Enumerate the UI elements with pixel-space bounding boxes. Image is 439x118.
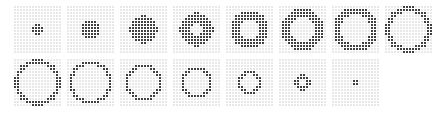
pixel-off xyxy=(271,51,274,54)
frame-cell xyxy=(279,6,327,55)
pixel-grid xyxy=(226,59,274,107)
pixel-off xyxy=(324,104,327,107)
pixel-grid xyxy=(332,6,380,54)
frame-cell xyxy=(67,59,115,108)
pixel-grid xyxy=(173,6,221,54)
pixel-off xyxy=(59,51,62,54)
pixel-off xyxy=(112,104,115,107)
pixel-off xyxy=(165,51,168,54)
frame-cell xyxy=(226,6,274,55)
pixel-off xyxy=(218,104,221,107)
pixel-off xyxy=(430,51,433,54)
pixel-grid xyxy=(385,6,433,54)
frame-grid xyxy=(14,6,433,108)
pixel-grid xyxy=(14,59,62,107)
pixel-off xyxy=(377,104,380,107)
pixel-grid xyxy=(67,59,115,107)
pixel-grid xyxy=(279,59,327,107)
frame-cell xyxy=(14,6,62,55)
pixel-off xyxy=(59,104,62,107)
pixel-grid xyxy=(67,6,115,54)
frame-cell xyxy=(14,59,62,108)
frame-cell xyxy=(67,6,115,55)
pixel-grid xyxy=(226,6,274,54)
frame-cell xyxy=(279,59,327,108)
pixel-frame-sequence-figure xyxy=(0,0,439,118)
pixel-off xyxy=(324,51,327,54)
frame-cell xyxy=(120,59,168,108)
pixel-off xyxy=(112,51,115,54)
pixel-off xyxy=(271,104,274,107)
frame-cell xyxy=(120,6,168,55)
frame-cell xyxy=(173,59,221,108)
pixel-grid xyxy=(120,59,168,107)
frame-cell xyxy=(173,6,221,55)
frame-empty-slot xyxy=(385,59,433,108)
frame-cell xyxy=(332,59,380,108)
pixel-grid xyxy=(279,6,327,54)
frame-cell xyxy=(385,6,433,55)
pixel-off xyxy=(218,51,221,54)
pixel-grid xyxy=(173,59,221,107)
pixel-grid xyxy=(14,6,62,54)
pixel-off xyxy=(377,51,380,54)
frame-cell xyxy=(332,6,380,55)
pixel-grid xyxy=(120,6,168,54)
frame-cell xyxy=(226,59,274,108)
pixel-off xyxy=(165,104,168,107)
pixel-grid xyxy=(332,59,380,107)
